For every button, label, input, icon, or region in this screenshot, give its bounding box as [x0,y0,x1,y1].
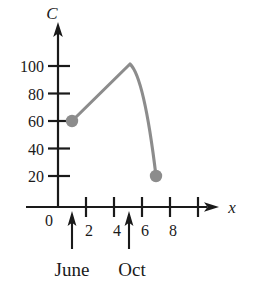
y-tick-label-60: 60 [28,113,44,130]
x-tick-label-2: 2 [85,222,93,239]
chart-figure: C x 0 100 80 60 40 20 2 4 6 8 June Oct [0,0,255,288]
x-tick-label-6: 6 [141,222,149,239]
curve-path [72,64,156,176]
data-point-start [66,115,78,127]
x-axis-label: x [227,198,236,217]
annotation-label-june: June [55,259,90,280]
x-tick-label-4: 4 [113,222,121,239]
annotation-arrows [68,211,134,249]
data-point-end [150,170,162,182]
y-tick-label-40: 40 [28,141,44,158]
y-tick-label-100: 100 [20,58,44,75]
origin-label: 0 [45,212,53,229]
x-tick-label-8: 8 [169,222,177,239]
y-tick-label-20: 20 [28,168,44,185]
coordinate-plot: C x 0 100 80 60 40 20 2 4 6 8 June Oct [0,0,255,288]
y-axis-label: C [46,4,58,23]
data-series-C [66,64,162,182]
annotation-label-oct: Oct [118,259,146,280]
y-tick-label-80: 80 [28,86,44,103]
axis-group [26,22,219,212]
